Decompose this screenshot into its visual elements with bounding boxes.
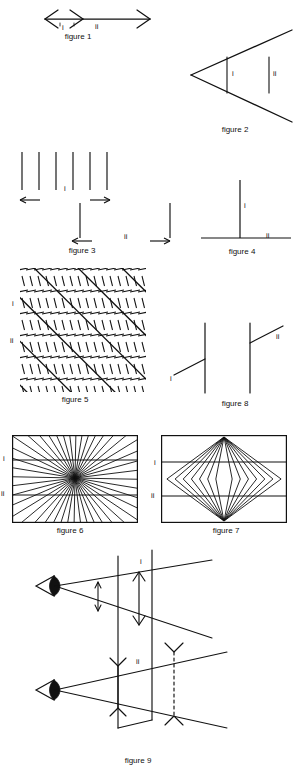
figure-7-drawing: [161, 435, 287, 523]
figure-6-label-i: i: [3, 455, 5, 463]
figure-1-label-ii: ii: [95, 23, 98, 31]
figure-2-caption: figure 2: [205, 126, 265, 134]
figure-7-label-ii: ii: [151, 492, 154, 500]
figure-2-drawing: [170, 30, 300, 125]
figure-1-label-i: i: [62, 24, 64, 32]
fig9-extent-near-i: [95, 582, 101, 611]
figure-2-label-i: i: [232, 70, 234, 78]
figure-8-label-ii: ii: [276, 333, 279, 341]
figure-3-drawing: [10, 148, 200, 248]
figure-9-caption: figure 9: [108, 757, 168, 765]
figure-3-label-ii: ii: [124, 233, 127, 241]
figure-5-caption: figure 5: [45, 396, 105, 404]
figure-9-label-i: i: [140, 558, 142, 566]
figure-2-label-ii: ii: [273, 70, 276, 78]
figure-1-caption: figure 1: [48, 33, 108, 41]
figure-8-label-i: i: [170, 375, 172, 383]
figure-9-label-ii: ii: [136, 658, 139, 666]
figure-4-caption: figure 4: [212, 248, 272, 256]
figure-5-drawing: [20, 268, 146, 392]
fig9-segment-far-ii: [165, 643, 183, 725]
figure-4-label-ii: ii: [266, 232, 269, 240]
fig9-extent-far-i: [133, 572, 145, 625]
figure-7-caption: figure 7: [196, 527, 256, 535]
figure-6-drawing: [12, 435, 138, 523]
fig9-segment-near-ii: [110, 658, 126, 716]
figure-7-label-i: i: [154, 459, 156, 467]
figure-6-label-ii: ii: [1, 490, 4, 498]
figure-8-caption: figure 8: [205, 400, 265, 408]
fig9-projection-plane: [118, 550, 152, 728]
fig8-oblique-i: [174, 359, 205, 375]
figure-4-drawing: [195, 175, 300, 247]
figure-6-caption: figure 6: [40, 527, 100, 535]
figure-8-drawing: [160, 305, 300, 400]
figure-9-drawing: [22, 548, 284, 758]
figure-5-label-i: i: [12, 300, 14, 308]
figure-3-caption: figure 3: [52, 247, 112, 255]
figure-4-label-i: i: [244, 202, 246, 210]
figure-5-label-ii: ii: [10, 337, 13, 345]
fig7-frame: [162, 436, 287, 523]
illusion-plate: i ii figure 1 i ii figure 2: [0, 0, 300, 773]
figure-3-label-i: i: [64, 185, 66, 193]
fig2-lower-rail: [191, 75, 292, 122]
fig9-rays-upper: [55, 560, 212, 638]
fig2-upper-rail: [191, 30, 292, 75]
fig9-rays-lower: [55, 652, 227, 728]
